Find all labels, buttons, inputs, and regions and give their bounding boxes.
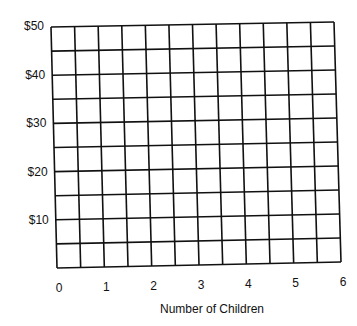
x-tick-label: 0 bbox=[56, 281, 63, 295]
blank-grid-chart: $50$40$30$20$10 0123456 Number of Childr… bbox=[0, 0, 357, 326]
y-tick-label: $30 bbox=[26, 116, 46, 130]
x-tick-label: 2 bbox=[150, 279, 157, 293]
y-tick-label: $20 bbox=[28, 165, 48, 179]
y-tick-label: $50 bbox=[24, 19, 44, 33]
x-tick-label: 1 bbox=[103, 280, 110, 294]
chart-grid bbox=[51, 22, 341, 268]
x-axis-tick-labels: 0123456 bbox=[56, 275, 347, 295]
x-tick-label: 5 bbox=[292, 276, 299, 290]
y-tick-label: $10 bbox=[29, 213, 49, 227]
x-axis-title: Number of Children bbox=[160, 302, 264, 316]
x-tick-label: 3 bbox=[198, 278, 205, 292]
y-axis-tick-labels: $50$40$30$20$10 bbox=[24, 19, 49, 227]
y-tick-label: $40 bbox=[25, 68, 45, 82]
x-tick-label: 4 bbox=[245, 277, 252, 291]
x-tick-label: 6 bbox=[340, 275, 347, 289]
